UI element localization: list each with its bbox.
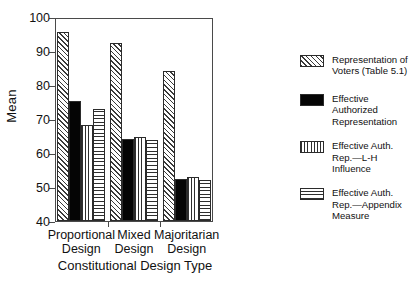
legend-item-4: Effective Auth.Rep.—AppendixMeasure — [300, 187, 416, 221]
legend-label-line3: Measure — [332, 210, 416, 221]
plot-area — [55, 18, 213, 222]
legend-label: Effective AuthorizedRepresentation — [332, 93, 416, 127]
legend-label-line2: Rep.—Appendix — [332, 199, 416, 210]
y-tick-label: 100 — [10, 13, 50, 23]
chart-figure: Mean 100908070605040 ProportionalDesignM… — [0, 0, 416, 281]
bar-3-2 — [175, 179, 187, 222]
legend-label-line2: Voters (Table 5.1) — [332, 65, 416, 76]
legend-label-line1: Effective Auth. — [332, 187, 416, 198]
y-tick-label: 50 — [10, 183, 50, 193]
x-tick-mark — [160, 222, 161, 227]
bar-1-1 — [57, 32, 69, 221]
legend-label: Effective Auth.Rep.—AppendixMeasure — [332, 187, 416, 221]
x-tick-mark — [108, 222, 109, 227]
y-tick-label: 40 — [10, 217, 50, 227]
legend-swatch-icon — [300, 141, 324, 153]
y-tick-label: 60 — [10, 149, 50, 159]
bar-2-2 — [122, 139, 134, 221]
bar-3-1 — [163, 71, 175, 221]
y-tick-label: 90 — [10, 47, 50, 57]
legend-item-2: Effective AuthorizedRepresentation — [300, 93, 416, 127]
x-axis-title: Constitutional Design Type — [40, 258, 230, 273]
legend-label-line1: Effective Auth. — [332, 140, 416, 151]
chart-legend: Representation ofVoters (Table 5.1)Effec… — [300, 54, 416, 235]
bar-2-1 — [110, 43, 122, 221]
legend-item-1: Representation ofVoters (Table 5.1) — [300, 54, 416, 80]
bar-2-3 — [134, 137, 146, 221]
y-tick-label: 80 — [10, 81, 50, 91]
x-tick-label-line2: Design — [139, 242, 235, 256]
x-tick-label-line1: Majoritarian — [139, 228, 235, 242]
bar-1-2 — [69, 101, 81, 221]
x-tick-label-3: MajoritarianDesign — [139, 228, 235, 256]
y-axis-title: Mean — [4, 66, 24, 146]
bar-2-4 — [146, 140, 158, 221]
bar-1-4 — [93, 109, 105, 221]
legend-label-line1: Effective Authorized — [332, 93, 416, 116]
legend-item-3: Effective Auth.Rep.—L-H Influence — [300, 140, 416, 174]
legend-label-line1: Representation of — [332, 54, 416, 65]
legend-label-line2: Representation — [332, 116, 416, 127]
bar-1-3 — [81, 125, 93, 221]
y-tick-label: 70 — [10, 115, 50, 125]
legend-swatch-icon — [300, 55, 324, 67]
bar-3-3 — [187, 177, 199, 221]
legend-label-line2: Rep.—L-H Influence — [332, 152, 416, 175]
legend-swatch-icon — [300, 94, 324, 106]
legend-label: Effective Auth.Rep.—L-H Influence — [332, 140, 416, 174]
legend-swatch-icon — [300, 188, 324, 200]
legend-label: Representation ofVoters (Table 5.1) — [332, 54, 416, 77]
bar-3-4 — [199, 180, 211, 221]
